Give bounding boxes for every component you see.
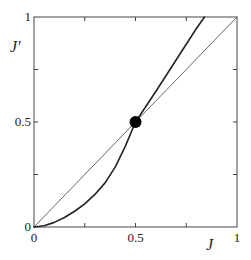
x-tick-label: 0 bbox=[31, 230, 38, 245]
y-tick-label: 1 bbox=[25, 9, 32, 24]
y-tick-label: 0.5 bbox=[15, 114, 31, 129]
map-curve bbox=[34, 17, 205, 227]
x-axis-label: J bbox=[206, 236, 214, 253]
tick-labels: 00.5100.51 bbox=[15, 9, 241, 245]
y-axis-label: J' bbox=[10, 38, 21, 55]
chart: 00.5100.51 J J' bbox=[0, 0, 251, 260]
x-tick-label: 0.5 bbox=[127, 230, 143, 245]
fixed-point-markers bbox=[130, 116, 142, 128]
fixed-point-dot bbox=[130, 116, 142, 128]
x-tick-label: 1 bbox=[234, 230, 241, 245]
y-tick-label: 0 bbox=[25, 219, 32, 234]
